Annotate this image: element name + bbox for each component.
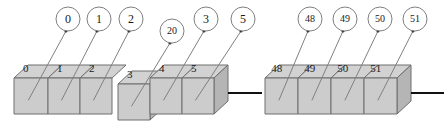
cell-top-label: 48 [271,62,283,74]
cell-top-label: 5 [191,62,197,74]
cell-top-label: 51 [370,62,381,74]
cell-top-label: 4 [159,62,165,74]
cell-top-label: 0 [23,62,29,74]
cell-top-label: 50 [337,62,349,74]
callout-value: 0 [65,12,71,26]
cube-front-face [265,78,298,114]
callout-value: 48 [305,13,315,24]
callout-value: 50 [375,13,385,24]
cell-top-label: 2 [89,62,95,74]
diagram-canvas: 00112232043554848494950505151 [0,0,444,122]
callout-value: 20 [167,25,177,36]
callout-value: 51 [410,13,420,24]
cube-front-face [331,78,364,114]
callout-value: 2 [128,12,134,26]
cell-top-label: 49 [304,62,316,74]
callout-value: 5 [240,12,246,26]
array-diagram-svg: 00112232043554848494950505151 [0,0,444,122]
array-cell[interactable]: 55 [182,7,255,114]
right-group: 4848494950505151 [265,7,427,114]
left-group: 0011223204355 [14,7,255,120]
callout-value: 3 [203,12,209,26]
callout-value: 1 [96,12,102,26]
callout-value: 49 [340,13,350,24]
cell-top-label: 1 [57,62,63,74]
cell-top-label: 3 [127,68,133,80]
cube-front-face [298,78,331,114]
